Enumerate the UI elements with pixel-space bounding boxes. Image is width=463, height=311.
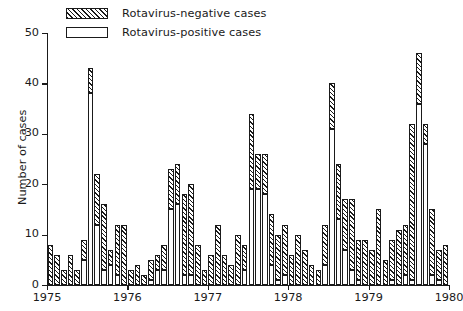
bar-1976-02 xyxy=(135,265,141,285)
bar-1975-01 xyxy=(48,245,54,285)
bar-segment-negative xyxy=(409,124,415,280)
bar-segment-negative xyxy=(88,68,94,93)
bar-segment-positive xyxy=(269,265,275,285)
bar-segment-positive xyxy=(148,280,154,285)
bar-segment-negative xyxy=(322,225,328,265)
bar-1978-06 xyxy=(322,225,328,285)
bar-segment-negative xyxy=(222,255,228,285)
bar-segment-positive xyxy=(429,275,435,285)
bar-segment-negative xyxy=(208,255,214,285)
bar-1976-08 xyxy=(175,164,181,285)
bar-1975-07 xyxy=(88,68,94,285)
y-tick-label: 20 xyxy=(25,177,39,190)
x-axis-line xyxy=(47,285,449,286)
x-tick-mark-4 xyxy=(369,285,370,290)
bar-segment-negative xyxy=(202,270,208,285)
bar-1979-09 xyxy=(423,124,429,285)
bar-1978-03 xyxy=(302,250,308,285)
bar-1979-08 xyxy=(416,53,422,285)
bar-1978-10 xyxy=(349,199,355,285)
bar-1978-07 xyxy=(329,83,335,285)
bar-1976-05 xyxy=(155,255,161,285)
bar-segment-negative xyxy=(356,240,362,280)
bar-segment-negative xyxy=(396,230,402,285)
bar-segment-negative xyxy=(342,199,348,249)
bar-segment-positive xyxy=(423,144,429,285)
bar-1976-09 xyxy=(182,194,188,285)
bar-1975-10 xyxy=(108,250,114,285)
bar-1977-12 xyxy=(282,225,288,285)
bar-segment-negative xyxy=(48,245,54,285)
bar-1975-12 xyxy=(121,225,127,285)
bar-segment-negative xyxy=(376,209,382,285)
bar-1977-10 xyxy=(269,214,275,285)
bar-1976-06 xyxy=(161,245,167,285)
bar-segment-positive xyxy=(168,209,174,285)
bar-segment-positive xyxy=(88,93,94,285)
bar-segment-negative xyxy=(295,235,301,285)
x-tick-mark-1 xyxy=(127,285,128,290)
bar-1977-03 xyxy=(222,255,228,285)
bar-segment-positive xyxy=(275,280,281,285)
bar-segment-negative xyxy=(148,260,154,280)
bar-segment-positive xyxy=(242,270,248,285)
bar-1978-02 xyxy=(295,235,301,285)
bar-segment-negative xyxy=(443,245,449,285)
x-tick-label-1977: 1977 xyxy=(193,291,222,304)
bar-segment-negative xyxy=(115,225,121,275)
bar-segment-positive xyxy=(108,265,114,285)
bar-segment-negative xyxy=(121,225,127,285)
bar-segment-negative xyxy=(81,240,87,260)
bar-1976-10 xyxy=(188,184,194,285)
bar-1978-11 xyxy=(356,240,362,285)
bar-segment-negative xyxy=(155,255,161,270)
bar-1975-03 xyxy=(61,270,67,285)
bar-segment-negative xyxy=(416,53,422,103)
bar-segment-positive xyxy=(188,275,194,285)
x-tick-mark-0 xyxy=(47,285,48,290)
y-tick-label: 10 xyxy=(25,227,39,240)
bar-1977-01 xyxy=(208,255,214,285)
bar-1975-06 xyxy=(81,240,87,285)
x-tick-label-1975: 1975 xyxy=(33,291,62,304)
bar-segment-negative xyxy=(68,255,74,285)
bar-segment-positive xyxy=(182,275,188,285)
bar-segment-negative xyxy=(94,174,100,224)
bar-segment-positive xyxy=(336,219,342,285)
bar-segment-positive xyxy=(94,225,100,285)
bar-segment-positive xyxy=(322,265,328,285)
bar-1975-04 xyxy=(68,255,74,285)
bar-1975-05 xyxy=(74,270,80,285)
x-tick-mark-5 xyxy=(449,285,450,290)
bar-segment-negative xyxy=(362,240,368,285)
bar-segment-positive xyxy=(389,280,395,285)
bar-series-container xyxy=(47,33,449,285)
bar-segment-negative xyxy=(255,154,261,189)
y-tick-label: 0 xyxy=(32,278,39,291)
bar-segment-negative xyxy=(215,225,221,285)
bar-segment-negative xyxy=(316,270,322,285)
bar-segment-negative xyxy=(235,235,241,285)
bar-segment-negative xyxy=(128,270,134,285)
bar-segment-negative xyxy=(289,255,295,285)
bar-segment-negative xyxy=(369,250,375,285)
x-tick-label-1976: 1976 xyxy=(113,291,142,304)
bar-segment-positive xyxy=(349,270,355,285)
bar-1976-07 xyxy=(168,169,174,285)
bar-segment-negative xyxy=(329,83,335,128)
bar-1979-07 xyxy=(409,124,415,285)
bar-segment-negative xyxy=(141,275,147,285)
bar-segment-positive xyxy=(436,280,442,285)
bar-segment-positive xyxy=(161,270,167,285)
bar-1979-01 xyxy=(369,250,375,285)
bar-1976-01 xyxy=(128,270,134,285)
bar-segment-positive xyxy=(249,189,255,285)
bar-1979-12 xyxy=(443,245,449,285)
bar-segment-negative xyxy=(175,164,181,204)
bar-1977-04 xyxy=(228,265,234,285)
bar-1979-06 xyxy=(403,225,409,285)
bar-1975-08 xyxy=(94,174,100,285)
bar-segment-negative xyxy=(101,204,107,270)
bar-segment-negative xyxy=(108,250,114,265)
